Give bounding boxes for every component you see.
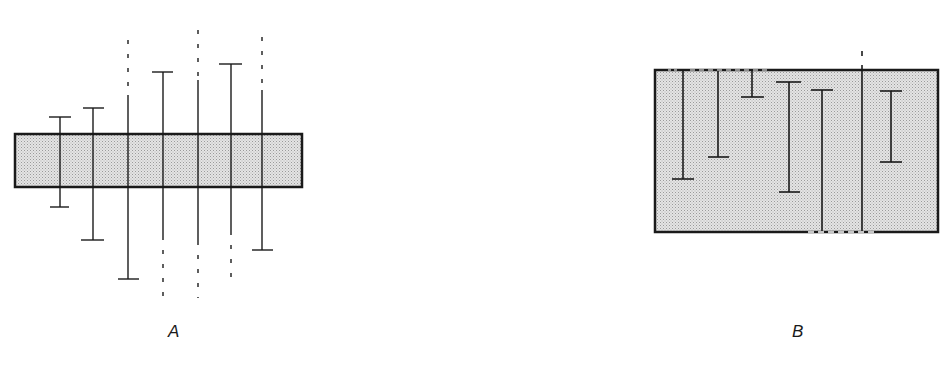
panel-b	[655, 42, 938, 232]
panel-a-slab	[15, 134, 302, 187]
panel-b-label: B	[792, 322, 803, 342]
panel-a-label: A	[168, 322, 179, 342]
panel-b-slab	[655, 70, 938, 232]
panel-a	[15, 20, 302, 298]
